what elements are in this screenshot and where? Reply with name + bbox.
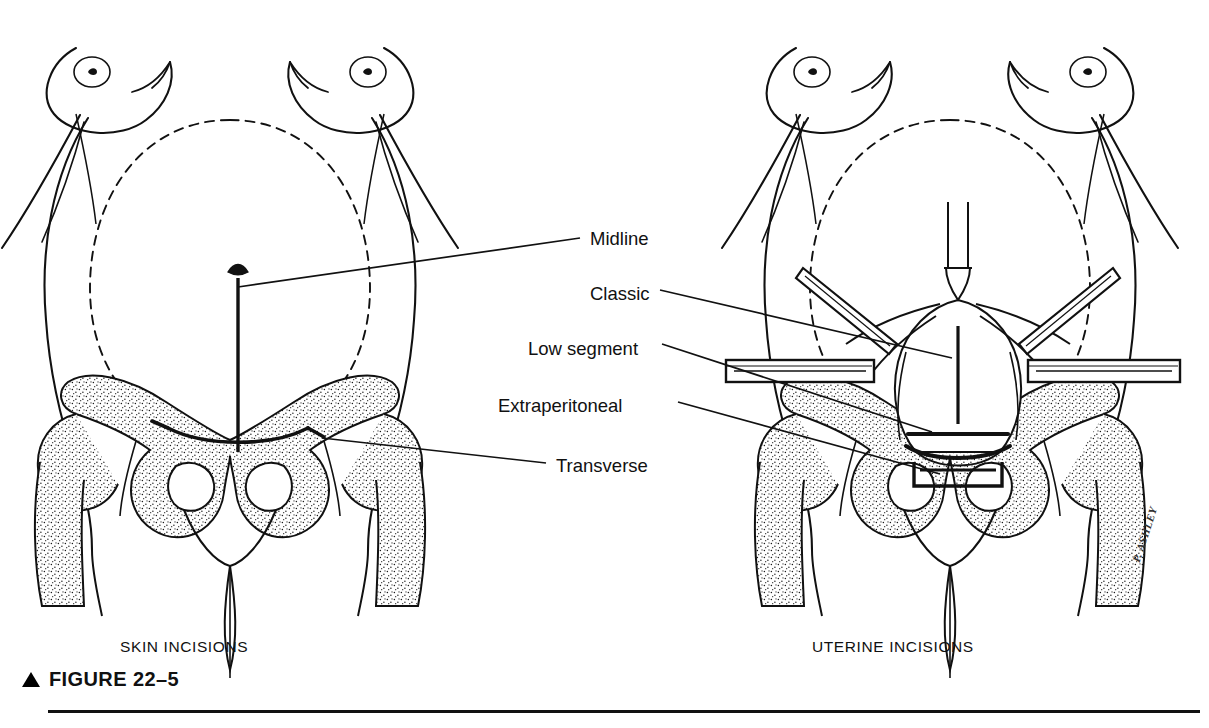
illustration-canvas bbox=[0, 0, 1209, 728]
panel-caption-skin-incisions: SKIN INCISIONS bbox=[120, 638, 248, 656]
umbilicus bbox=[228, 265, 248, 276]
angled-forceps-right bbox=[1019, 268, 1120, 354]
label-extraperitoneal: Extraperitoneal bbox=[498, 395, 622, 417]
leader-line-midline bbox=[238, 238, 580, 287]
label-low-segment: Low segment bbox=[528, 338, 638, 360]
panel-caption-uterine-incisions: UTERINE INCISIONS bbox=[812, 638, 974, 656]
label-transverse: Transverse bbox=[556, 455, 648, 477]
retractor-blade-left bbox=[726, 360, 874, 382]
label-midline: Midline bbox=[590, 228, 649, 250]
label-classic: Classic bbox=[590, 283, 650, 305]
leader-line-classic bbox=[660, 290, 952, 358]
leader-line-transverse bbox=[322, 438, 546, 463]
panel-uterine-incisions bbox=[660, 48, 1180, 678]
figure-number-label: FIGURE 22–5 bbox=[49, 668, 179, 691]
figure-caption: FIGURE 22–5 bbox=[22, 668, 179, 691]
triangle-up-icon bbox=[22, 672, 40, 687]
retractor-blade-right bbox=[1028, 360, 1180, 382]
figure-plate: Midline Classic Low segment Extraperiton… bbox=[0, 0, 1209, 728]
panel-skin-incisions bbox=[2, 48, 580, 678]
caption-divider-rule bbox=[48, 710, 1200, 713]
